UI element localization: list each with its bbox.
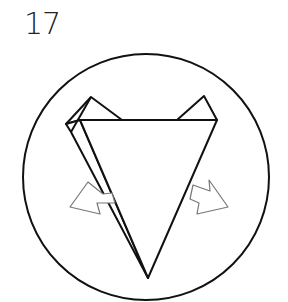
right-arrow-icon	[190, 180, 228, 214]
origami-diagram	[0, 0, 288, 302]
right-flap	[177, 96, 217, 120]
